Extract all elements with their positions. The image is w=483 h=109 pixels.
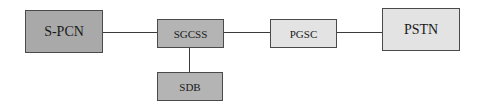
- edge-sgcss-sdb: [189, 48, 190, 72]
- edge-spcn-sgcss: [103, 32, 157, 33]
- node-sgcss: SGCSS: [157, 19, 224, 48]
- node-spcn: S-PCN: [25, 10, 103, 53]
- node-pstn: PSTN: [382, 8, 460, 51]
- node-label: PGSC: [290, 28, 318, 40]
- node-label: S-PCN: [44, 24, 84, 40]
- node-pgsc: PGSC: [270, 19, 337, 48]
- node-label: SDB: [179, 81, 200, 93]
- node-label: PSTN: [404, 22, 438, 38]
- edge-pgsc-pstn: [337, 32, 382, 33]
- node-label: SGCSS: [174, 28, 208, 40]
- node-sdb: SDB: [157, 72, 223, 101]
- edge-sgcss-pgsc: [224, 32, 270, 33]
